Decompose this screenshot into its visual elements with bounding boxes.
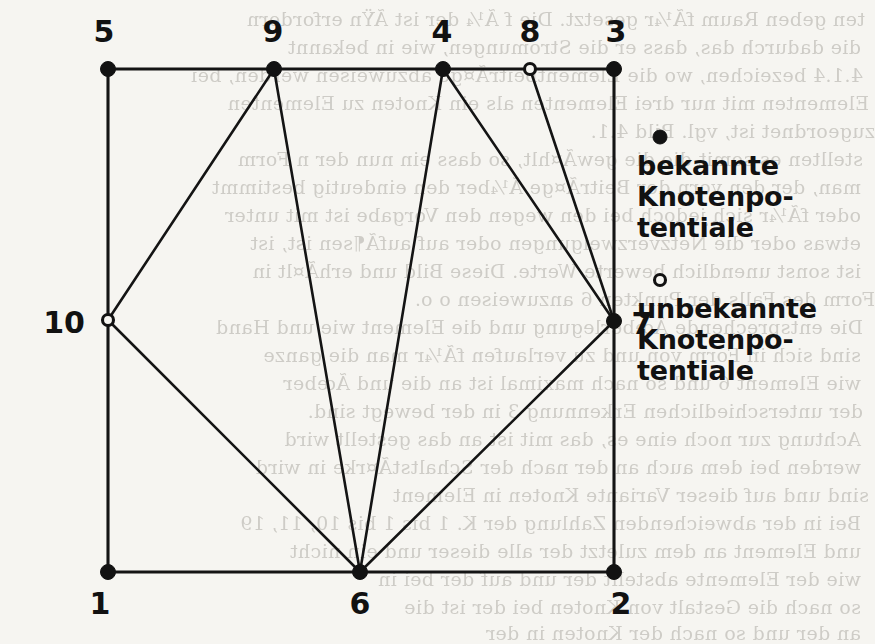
legend-text-line: tentiale	[637, 355, 754, 386]
legend-marker-hollow-dot	[655, 275, 666, 286]
legend-text-line: Knotenpo-	[637, 324, 793, 355]
node-label-1: 1	[90, 586, 111, 621]
node-marker-6-filled-dot	[353, 565, 368, 580]
mesh-node-labels-group: 12345678910	[43, 14, 652, 621]
node-marker-4-filled-dot	[436, 62, 451, 77]
node-label-4: 4	[432, 14, 453, 49]
mesh-edge-6-7	[360, 321, 614, 572]
node-label-3: 3	[606, 14, 627, 49]
node-label-6: 6	[350, 586, 371, 621]
mesh-edge-9-6	[274, 69, 360, 572]
mesh-edges-group	[108, 69, 614, 572]
mesh-edge-8-7	[530, 69, 614, 321]
mesh-nodes-group	[101, 62, 622, 580]
mesh-edge-9-10	[108, 69, 274, 320]
node-label-9: 9	[263, 14, 284, 49]
node-marker-5-filled-dot	[101, 62, 116, 77]
node-marker-3-filled-dot	[607, 62, 622, 77]
node-label-8: 8	[520, 14, 541, 49]
node-marker-8-hollow-dot	[525, 64, 536, 75]
legend-text-line: unbekannte	[637, 293, 817, 324]
legend: bekannteKnotenpo-tentialeunbekannteKnote…	[637, 130, 817, 386]
node-marker-2-filled-dot	[607, 565, 622, 580]
mesh-edge-4-6	[360, 69, 443, 572]
legend-text-line: bekannte	[637, 150, 779, 181]
node-marker-1-filled-dot	[101, 565, 116, 580]
node-label-10: 10	[43, 305, 85, 340]
node-marker-10-hollow-dot	[103, 315, 114, 326]
mesh-edge-4-7	[443, 69, 614, 321]
legend-marker-filled-dot	[653, 130, 667, 144]
node-label-5: 5	[94, 14, 115, 49]
node-label-2: 2	[611, 586, 632, 621]
legend-text-line: Knotenpo-	[637, 181, 793, 212]
node-marker-9-filled-dot	[267, 62, 282, 77]
node-marker-7-filled-dot	[607, 314, 622, 329]
legend-text-line: tentiale	[637, 212, 754, 243]
